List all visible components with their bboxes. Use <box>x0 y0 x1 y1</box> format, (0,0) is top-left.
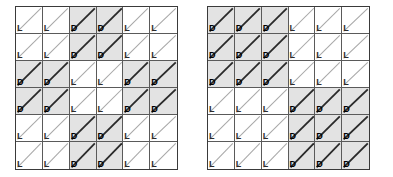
grid-cell[interactable]: D <box>262 34 289 61</box>
grid-cell[interactable]: D <box>208 61 235 88</box>
grid-cell[interactable]: L <box>43 142 70 169</box>
grid-cell[interactable]: L <box>262 88 289 115</box>
grid-cell[interactable]: D <box>342 115 369 142</box>
grid-cell[interactable]: D <box>208 34 235 61</box>
figure-root: LLDDLLLLDDLLDDLLDDDDLLDDLLDDLLLLDDLL DDD… <box>0 0 393 177</box>
grid-cell[interactable]: L <box>70 61 97 88</box>
grid-cell[interactable]: L <box>235 142 262 169</box>
grid-cell[interactable]: L <box>342 61 369 88</box>
grid-cell[interactable]: D <box>342 142 369 169</box>
grid-cell[interactable]: L <box>16 7 43 34</box>
grid-cell[interactable]: L <box>208 142 235 169</box>
grid-cell[interactable]: L <box>262 115 289 142</box>
cell-label: L <box>44 23 50 33</box>
grid-cell[interactable]: L <box>289 61 316 88</box>
grid-cell[interactable]: L <box>235 88 262 115</box>
grid-cell[interactable]: L <box>262 142 289 169</box>
grid-cell[interactable]: L <box>150 7 177 34</box>
grid-cell[interactable]: D <box>70 115 97 142</box>
grid-cell[interactable]: D <box>16 88 43 115</box>
grid-cell[interactable]: L <box>315 34 342 61</box>
cell-label: D <box>290 104 297 114</box>
cell-label: L <box>71 104 77 114</box>
cell-label: D <box>124 77 131 87</box>
grid-cell[interactable]: D <box>208 7 235 34</box>
grid-cell[interactable]: L <box>208 115 235 142</box>
grid-cell[interactable]: D <box>315 88 342 115</box>
grid-cell[interactable]: L <box>70 88 97 115</box>
grid-cell[interactable]: L <box>123 142 150 169</box>
grid-cell[interactable]: L <box>16 115 43 142</box>
grid-cell[interactable]: D <box>235 7 262 34</box>
grid-cell[interactable]: D <box>315 142 342 169</box>
grid-cell[interactable]: D <box>97 7 124 34</box>
grid-cell[interactable]: D <box>43 61 70 88</box>
grid-cell[interactable]: L <box>43 34 70 61</box>
grid-cell[interactable]: D <box>262 7 289 34</box>
cell-label: D <box>151 77 158 87</box>
grid-cell[interactable]: L <box>123 115 150 142</box>
grid-cell[interactable]: L <box>342 7 369 34</box>
grid-cell[interactable]: D <box>262 61 289 88</box>
grid-cell[interactable]: L <box>97 61 124 88</box>
grid-cell[interactable]: L <box>97 88 124 115</box>
grid-cell[interactable]: L <box>43 7 70 34</box>
grid-cell[interactable]: L <box>235 115 262 142</box>
grid-cell[interactable]: L <box>315 61 342 88</box>
grid-cell[interactable]: D <box>16 61 43 88</box>
grid-cell[interactable]: D <box>97 142 124 169</box>
cell-label: L <box>124 159 130 169</box>
cell-label: D <box>316 104 323 114</box>
cell-label: D <box>290 159 297 169</box>
cell-label: L <box>17 50 23 60</box>
grid-cell[interactable]: D <box>315 115 342 142</box>
grid-cell[interactable]: L <box>315 7 342 34</box>
grid-cell[interactable]: D <box>70 34 97 61</box>
grid-cell[interactable]: D <box>70 7 97 34</box>
cell-label: L <box>316 23 322 33</box>
grid-cell[interactable]: D <box>289 142 316 169</box>
grid-cell[interactable]: L <box>150 142 177 169</box>
grid-cell[interactable]: D <box>235 61 262 88</box>
cell-label: D <box>236 23 243 33</box>
grid-cell[interactable]: D <box>123 61 150 88</box>
grid-cell[interactable]: D <box>43 88 70 115</box>
grid-cell[interactable]: L <box>208 88 235 115</box>
grid-cell[interactable]: L <box>123 7 150 34</box>
grid-cell[interactable]: L <box>150 34 177 61</box>
grid-cell[interactable]: L <box>43 115 70 142</box>
grid-cell[interactable]: L <box>123 34 150 61</box>
cell-label: D <box>316 159 323 169</box>
cell-label: L <box>124 23 130 33</box>
grid-cell[interactable]: D <box>235 34 262 61</box>
grid-cell[interactable]: L <box>16 34 43 61</box>
grid-cell[interactable]: L <box>289 7 316 34</box>
grid-cell[interactable]: D <box>150 61 177 88</box>
cell-label: L <box>236 131 242 141</box>
grid-cell[interactable]: D <box>70 142 97 169</box>
grid-cell[interactable]: D <box>150 88 177 115</box>
grid-cell[interactable]: L <box>16 142 43 169</box>
cell-label: L <box>44 159 50 169</box>
grid-cell[interactable]: D <box>97 34 124 61</box>
cell-label: L <box>290 77 296 87</box>
cell-label: L <box>343 50 349 60</box>
grid-cell[interactable]: L <box>150 115 177 142</box>
cell-label: D <box>98 23 105 33</box>
cell-label: L <box>316 50 322 60</box>
cell-label: D <box>290 131 297 141</box>
grid-cell[interactable]: D <box>289 88 316 115</box>
cell-label: D <box>209 23 216 33</box>
grid-cell[interactable]: L <box>342 34 369 61</box>
grid-cell[interactable]: D <box>289 115 316 142</box>
grid-cell[interactable]: D <box>342 88 369 115</box>
cell-label: L <box>343 77 349 87</box>
grid-cell[interactable]: L <box>289 34 316 61</box>
cell-label: D <box>17 77 24 87</box>
grid-cell[interactable]: D <box>123 88 150 115</box>
cell-label: L <box>44 50 50 60</box>
grid-cell[interactable]: D <box>97 115 124 142</box>
cell-label: L <box>44 131 50 141</box>
cell-label: L <box>263 104 269 114</box>
cell-label: D <box>209 50 216 60</box>
